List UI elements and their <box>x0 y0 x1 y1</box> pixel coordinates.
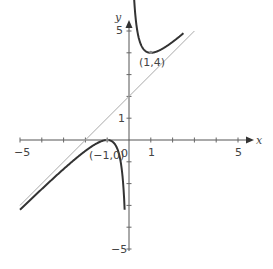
y-tick-label-5: 5 <box>116 24 123 37</box>
x-tick-label-1: 1 <box>148 146 155 159</box>
y-axis-arrow-icon <box>126 20 133 28</box>
chart-plot: x y 0 −5 1 5 5 1 −5 (1,4) (−1,0) <box>0 0 273 269</box>
axes <box>20 26 248 251</box>
y-tick-label-1: 1 <box>118 112 125 125</box>
y-tick-label-neg5: −5 <box>111 243 127 256</box>
series-group <box>20 0 194 210</box>
x-tick-label-neg5: −5 <box>14 146 30 159</box>
x-axis-arrow-icon <box>246 137 254 144</box>
annotation-max-point: (−1,0) <box>89 149 124 162</box>
x-axis-label: x <box>256 134 263 147</box>
asymptote-line <box>20 31 194 205</box>
point-min-marker <box>149 51 152 54</box>
point-max-marker <box>106 138 109 141</box>
annotation-min-point: (1,4) <box>139 56 165 69</box>
curve-right-branch <box>133 0 183 53</box>
y-axis-label: y <box>114 11 122 24</box>
x-tick-label-5: 5 <box>235 146 242 159</box>
